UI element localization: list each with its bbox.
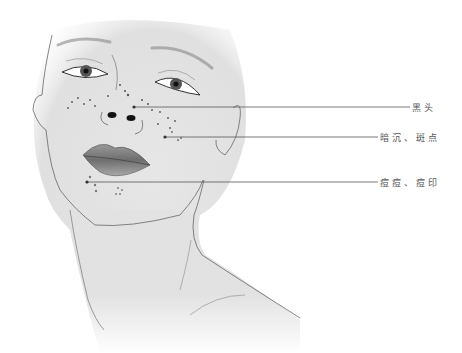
label-blackhead: 黑头	[412, 101, 436, 114]
neck-shape	[70, 210, 300, 353]
label-dark-spots: 暗沉、斑点	[380, 131, 440, 144]
label-acne: 痘痘、痘印	[380, 176, 440, 189]
right-nostril	[127, 115, 136, 121]
left-nostril	[108, 112, 117, 118]
face-illustration: 黑头 暗沉、斑点 痘痘、痘印	[0, 0, 462, 353]
